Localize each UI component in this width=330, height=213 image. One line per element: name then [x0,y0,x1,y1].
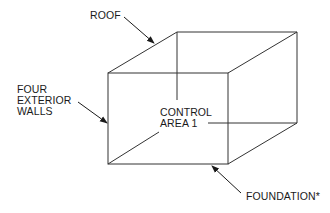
cube-edges [108,32,297,164]
roof-label: ROOF [90,10,121,21]
foundation-arrow-icon [212,166,241,193]
foundation-label: FOUNDATION* [246,191,320,202]
top-right-diagonal [228,32,297,73]
bottom-right-diagonal [228,123,297,164]
walls-label-line3: WALLS [17,106,53,117]
control-area-diagram: ROOF FOUR EXTERIOR WALLS CONTROL AREA 1 … [0,0,330,213]
control-area-label-line2: AREA 1 [160,118,197,129]
walls-arrow-icon [78,102,107,123]
hidden-bottom-diagonal [108,132,159,164]
roof-arrow-icon [124,17,154,43]
leader-arrows [78,17,241,193]
top-left-diagonal [108,32,177,73]
